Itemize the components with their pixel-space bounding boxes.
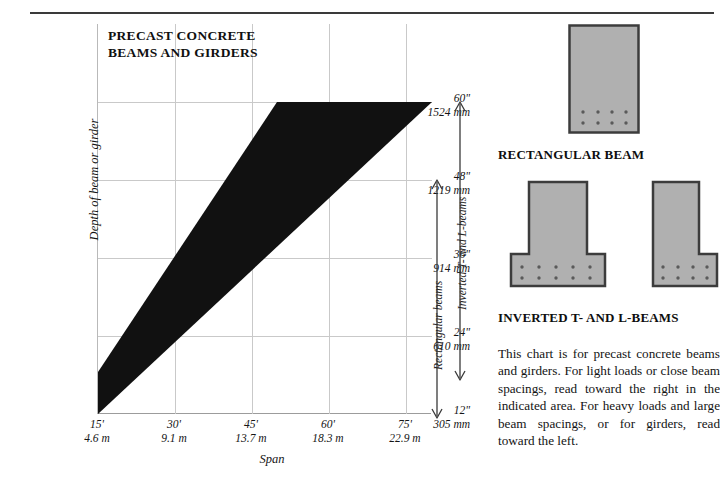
chart-page: 60" 1524 mm 48" 1219 mm 36" 914 mm 24" 6… [0,0,720,482]
chart-region: 60" 1524 mm 48" 1219 mm 36" 914 mm 24" 6… [0,0,470,482]
inverted-t-l-beams-heading: INVERTED T- AND L-BEAMS [498,310,679,326]
annotation-rectangular-beams: Rectangular beams [432,281,444,370]
chart-title-line1: PRECAST CONCRETE [108,28,255,43]
depth-range-band [98,24,432,414]
explanatory-paragraph: This chart is for precast concrete beams… [498,345,720,450]
x-axis-title: Span [232,452,312,467]
chart-title: PRECAST CONCRETE BEAMS AND GIRDERS [108,28,288,62]
chart-title-line2: BEAMS AND GIRDERS [108,45,258,60]
y-axis-title: Depth of beam or girder [87,80,102,280]
plot-area [97,24,431,414]
annotation-inverted-t-l-beams: Inverted T- and L-beams [456,197,468,310]
xtick-75ft-meters: 22.9 m [360,432,450,446]
inverted-t-beam-figure [509,180,607,288]
legend-column: RECTANGULAR BEAM [490,0,720,482]
rectangular-beam-figure [568,24,640,134]
l-beam-figure [651,180,719,288]
rectangular-beam-heading: RECTANGULAR BEAM [498,147,644,163]
